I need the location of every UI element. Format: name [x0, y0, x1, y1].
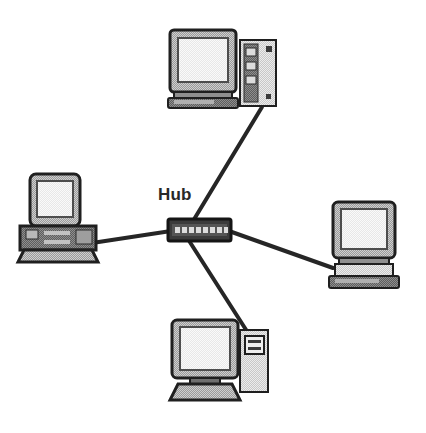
screen: [341, 209, 387, 249]
hub-port: [224, 227, 228, 233]
workstation-right: [329, 202, 399, 288]
power-led: [266, 94, 271, 99]
screen: [37, 181, 73, 217]
cable-hub-to-left-workstation: [92, 231, 171, 243]
hub-port: [210, 227, 215, 233]
drive-bay: [246, 76, 256, 84]
hub-device[interactable]: [168, 219, 231, 241]
hub-label: Hub: [158, 186, 192, 203]
power-led: [266, 46, 272, 52]
hub-port: [182, 227, 187, 233]
drive-slot: [44, 231, 70, 235]
system-body-left: [20, 226, 96, 250]
screen: [180, 327, 230, 370]
network-diagram: Hub: [0, 0, 426, 433]
workstation-bottom: [170, 320, 268, 400]
drive-bay: [248, 340, 261, 343]
keyboard-right: [329, 276, 399, 288]
hub-port: [203, 227, 208, 233]
cable-hub-to-right-workstation: [229, 231, 333, 268]
monitor-bottom: [172, 320, 238, 378]
cable-hub-to-top-workstation: [190, 107, 262, 226]
drive-slot: [44, 240, 70, 244]
stand-left: [18, 250, 98, 262]
monitor-left: [30, 174, 80, 226]
hub-port: [196, 227, 201, 233]
network-diagram-canvas: [0, 0, 426, 433]
drive-bay: [246, 62, 256, 70]
hub-port: [175, 227, 180, 233]
workstation-left: [18, 174, 98, 262]
tower-server-top: [240, 40, 276, 106]
floppy-slot: [26, 230, 38, 239]
screen: [178, 38, 228, 82]
drive-bay: [246, 48, 256, 56]
mini-tower-bottom: [240, 330, 268, 392]
keyboard-top: [168, 98, 238, 108]
hub-port: [189, 227, 194, 233]
monitor-base-right: [335, 258, 393, 276]
monitor-right: [333, 202, 395, 258]
workstation-top: [168, 30, 276, 108]
hub-port: [217, 227, 222, 233]
monitor-top: [170, 30, 236, 98]
drive-bay: [248, 347, 261, 350]
monitor-base-bottom: [170, 378, 240, 400]
